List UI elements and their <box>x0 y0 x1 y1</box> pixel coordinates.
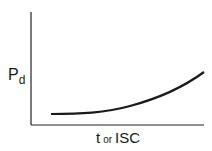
y-label-main: P <box>8 66 19 83</box>
x-label-t: t <box>96 129 100 146</box>
x-label-isc: ISC <box>115 129 140 146</box>
pd-curve <box>51 72 204 114</box>
y-label-subscript: d <box>19 73 26 87</box>
x-axis-label: torISC <box>96 129 140 146</box>
y-axis-label: Pd <box>8 66 25 87</box>
x-label-or: or <box>103 134 112 145</box>
